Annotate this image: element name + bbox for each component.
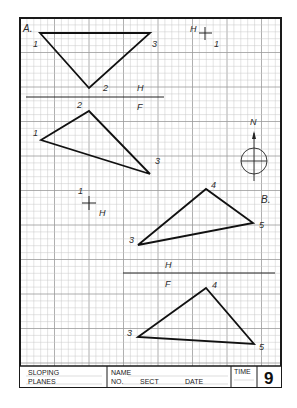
a-fold-lower-label: F xyxy=(137,102,143,112)
ref-top-letter: H xyxy=(190,24,197,34)
date-field-label: DATE xyxy=(185,378,203,385)
reference-mark-top: H 1 xyxy=(190,24,219,49)
b-top-label-4: 4 xyxy=(211,180,216,190)
drawing-sheet: A. 1 3 2 H F 2 1 3 H 1 1 H N xyxy=(0,0,297,408)
b-front-label-4: 4 xyxy=(212,280,217,290)
graph-paper-grid xyxy=(20,18,281,387)
a-fold-upper-label: H xyxy=(137,83,144,93)
north-arrowhead-icon xyxy=(252,131,256,139)
ref-mid-letter: H xyxy=(99,208,106,218)
problem-b: B. 4 5 3 H F 4 3 5 xyxy=(123,180,275,352)
b-top-label-3: 3 xyxy=(129,235,134,245)
title-line-1: SLOPING xyxy=(28,369,59,376)
a-top-label-1: 1 xyxy=(33,39,38,49)
number-field-label: NO. xyxy=(111,378,124,385)
ref-top-number: 1 xyxy=(214,39,219,49)
b-front-label-5: 5 xyxy=(259,342,265,352)
problem-b-label: B. xyxy=(261,194,270,205)
b-fold-lower-label: F xyxy=(165,279,171,289)
name-field-label: NAME xyxy=(111,369,132,376)
a-front-label-3: 3 xyxy=(155,156,160,166)
triangle-a-top-view xyxy=(40,33,150,88)
a-front-label-2: 2 xyxy=(76,100,82,110)
a-top-label-3: 3 xyxy=(152,39,157,49)
title-line-2: PLANES xyxy=(28,378,56,385)
b-front-label-3: 3 xyxy=(127,328,132,338)
section-field-label: SECT xyxy=(140,378,159,385)
problem-a-label: A. xyxy=(22,23,32,34)
sheet-number: 9 xyxy=(264,369,273,388)
title-block: SLOPING PLANES NAME NO. SECT DATE TIME 9 xyxy=(20,366,281,388)
triangle-a-front-view xyxy=(41,111,150,174)
time-field-label: TIME xyxy=(234,368,251,375)
ref-mid-number: 1 xyxy=(78,186,83,196)
b-fold-upper-label: H xyxy=(165,260,172,270)
a-top-label-2: 2 xyxy=(102,83,108,93)
north-label: N xyxy=(250,117,257,127)
a-front-label-1: 1 xyxy=(33,128,38,138)
